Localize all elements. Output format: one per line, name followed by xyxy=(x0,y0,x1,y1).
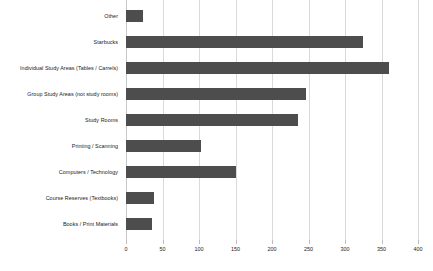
category-label: Printing / Scanning xyxy=(0,143,118,149)
category-label: Study Rooms xyxy=(0,117,118,123)
gridline xyxy=(382,0,383,240)
tick-mark xyxy=(272,240,273,244)
tick-label: 200 xyxy=(268,246,277,253)
tick-label: 300 xyxy=(341,246,350,253)
tick-mark xyxy=(163,240,164,244)
tick-label: 50 xyxy=(160,246,166,253)
tick-label: 100 xyxy=(195,246,204,253)
bar xyxy=(126,192,154,204)
tick-mark xyxy=(199,240,200,244)
tick-mark xyxy=(418,240,419,244)
tick-mark xyxy=(236,240,237,244)
bar xyxy=(126,10,143,22)
category-label: Computers / Technology xyxy=(0,169,118,175)
category-label: Starbucks xyxy=(0,39,118,45)
category-label: Course Reserves (Textbooks) xyxy=(0,195,118,201)
tick-label: 400 xyxy=(414,246,423,253)
category-label: Group Study Areas (not study rooms) xyxy=(0,91,118,97)
category-label: Individual Study Areas (Tables / Carrels… xyxy=(0,65,118,71)
tick-label: 250 xyxy=(304,246,313,253)
category-label: Books / Print Materials xyxy=(0,221,118,227)
tick-label: 350 xyxy=(377,246,386,253)
gridline xyxy=(418,0,419,240)
tick-label: 0 xyxy=(125,246,128,253)
tick-mark xyxy=(345,240,346,244)
tick-label: 150 xyxy=(231,246,240,253)
category-axis-labels: OtherStarbucksIndividual Study Areas (Ta… xyxy=(0,0,122,240)
bar xyxy=(126,218,152,230)
bar xyxy=(126,140,201,152)
category-label: Other xyxy=(0,13,118,19)
tick-mark xyxy=(126,240,127,244)
bar xyxy=(126,166,236,178)
plot-area xyxy=(126,0,418,240)
value-axis: 050100150200250300350400 xyxy=(126,240,418,271)
bar-chart: OtherStarbucksIndividual Study Areas (Ta… xyxy=(0,0,433,271)
bar xyxy=(126,114,298,126)
bar xyxy=(126,88,306,100)
bar xyxy=(126,62,389,74)
tick-mark xyxy=(309,240,310,244)
tick-mark xyxy=(382,240,383,244)
bar xyxy=(126,36,363,48)
